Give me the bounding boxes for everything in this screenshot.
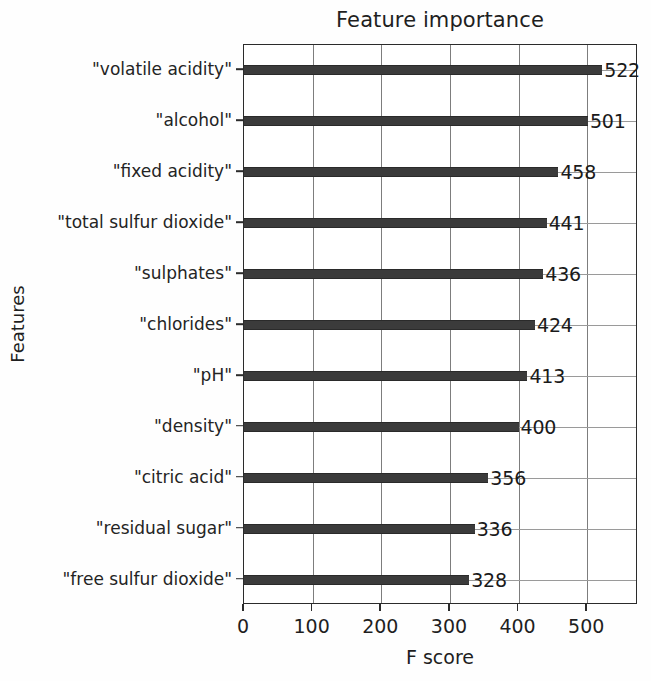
x-tick-mark [242, 604, 244, 611]
bar-value-label: 413 [529, 365, 565, 387]
x-axis-label: F score [243, 646, 637, 668]
y-tick-label: "volatile acidity" [30, 59, 232, 79]
y-tick-mark [236, 527, 243, 529]
y-tick-mark [236, 120, 243, 122]
y-tick-mark [236, 578, 243, 580]
bar-value-label: 458 [560, 161, 596, 183]
bar-value-label: 441 [549, 212, 585, 234]
y-tick-label: "alcohol" [30, 110, 232, 130]
bar[interactable] [244, 65, 602, 75]
y-tick-label: "chlorides" [30, 314, 232, 334]
bar[interactable] [244, 116, 588, 126]
y-tick-mark [236, 323, 243, 325]
y-tick-label: "sulphates" [30, 263, 232, 283]
bar[interactable] [244, 320, 535, 330]
bar[interactable] [244, 575, 469, 585]
y-tick-label: "density" [30, 416, 232, 436]
x-tick-label: 500 [568, 615, 604, 637]
chart-title: Feature importance [243, 8, 637, 32]
x-tick-mark [585, 604, 587, 611]
bar[interactable] [244, 167, 558, 177]
bar-value-label: 336 [477, 518, 513, 540]
bar-value-label: 436 [545, 263, 581, 285]
y-tick-mark [236, 425, 243, 427]
y-tick-mark [236, 69, 243, 71]
bar[interactable] [244, 422, 519, 432]
y-tick-mark [236, 374, 243, 376]
y-tick-label: "pH" [30, 365, 232, 385]
x-tick-mark [448, 604, 450, 611]
y-tick-mark [236, 221, 243, 223]
x-tick-label: 200 [362, 615, 398, 637]
x-tick-mark [311, 604, 313, 611]
bar-value-label: 501 [590, 110, 626, 132]
bar[interactable] [244, 269, 543, 279]
y-tick-mark [236, 170, 243, 172]
x-tick-label: 100 [294, 615, 330, 637]
y-axis-label-container: Features [0, 44, 34, 604]
plot-area: 522501458441436424413400356336328 [243, 44, 637, 604]
bar-value-label: 522 [604, 59, 640, 81]
y-tick-label: "total sulfur dioxide" [30, 212, 232, 232]
x-gridline [587, 45, 588, 603]
y-tick-label: "fixed acidity" [30, 161, 232, 181]
y-axis-label: Features [7, 285, 28, 362]
bar-value-label: 356 [490, 467, 526, 489]
x-tick-label: 400 [499, 615, 535, 637]
feature-importance-chart: Feature importance Features 522501458441… [0, 0, 651, 681]
bar[interactable] [244, 524, 475, 534]
x-tick-label: 0 [237, 615, 249, 637]
y-tick-label: "residual sugar" [30, 518, 232, 538]
y-tick-mark [236, 476, 243, 478]
x-tick-mark [379, 604, 381, 611]
x-tick-mark [517, 604, 519, 611]
bar-value-label: 424 [537, 314, 573, 336]
y-tick-label: "free sulfur dioxide" [30, 569, 232, 589]
y-tick-mark [236, 272, 243, 274]
bar[interactable] [244, 473, 488, 483]
bar[interactable] [244, 218, 547, 228]
y-tick-label: "citric acid" [30, 467, 232, 487]
x-tick-label: 300 [431, 615, 467, 637]
bar-value-label: 328 [471, 569, 507, 591]
bar-value-label: 400 [521, 416, 557, 438]
bar[interactable] [244, 371, 527, 381]
